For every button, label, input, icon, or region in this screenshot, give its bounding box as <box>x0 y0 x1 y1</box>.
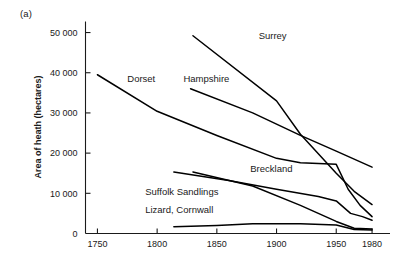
y-tick-label: 40 000 <box>50 68 78 78</box>
y-tick-label: 10 000 <box>50 189 78 199</box>
series-line <box>97 75 372 217</box>
y-tick-label: 50 000 <box>50 28 78 38</box>
chart-plot-area: 010 00020 00030 00040 00050 000 17501800… <box>0 0 404 261</box>
series-line <box>191 89 372 167</box>
series-label: Dorset <box>127 73 155 84</box>
figure-container: (a) Area of heath (hectares) 010 00020 0… <box>0 0 404 261</box>
x-axis-ticks: 175018001850190019501980 <box>87 229 382 249</box>
series-label: Hampshire <box>183 73 229 84</box>
y-tick-label: 20 000 <box>50 148 78 158</box>
series-label: Lizard, Cornwall <box>145 204 213 215</box>
y-tick-label: 30 000 <box>50 108 78 118</box>
x-tick-label: 1850 <box>207 239 227 249</box>
data-series-group <box>97 36 372 230</box>
series-label: Suffolk Sandlings <box>145 186 218 197</box>
x-tick-label: 1800 <box>147 239 167 249</box>
x-tick-label: 1980 <box>362 239 382 249</box>
series-label: Surrey <box>259 30 287 41</box>
y-axis-ticks: 010 00020 00030 00040 00050 000 <box>50 28 91 239</box>
series-line <box>193 172 372 229</box>
y-tick-label: 0 <box>72 229 77 239</box>
series-label: Breckland <box>250 163 292 174</box>
series-line <box>174 224 372 230</box>
x-tick-label: 1950 <box>326 239 346 249</box>
x-tick-label: 1900 <box>267 239 287 249</box>
x-tick-label: 1750 <box>87 239 107 249</box>
axis-lines <box>86 22 391 234</box>
